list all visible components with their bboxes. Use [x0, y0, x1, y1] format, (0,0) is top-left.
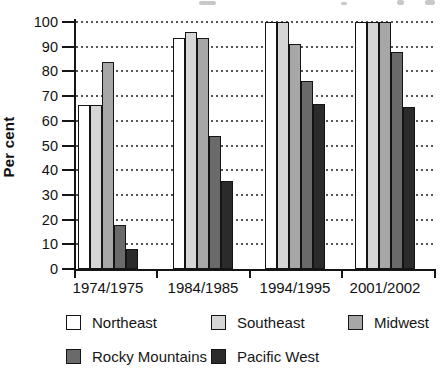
- legend-swatch-rocky-mountains: [66, 349, 81, 364]
- legend-label-southeast: Southeast: [237, 314, 305, 331]
- legend-swatch-pacific-west: [211, 349, 226, 364]
- cropped-text-fragment-1: [341, 2, 347, 5]
- legend-item-rocky-mountains: Rocky Mountains: [66, 348, 207, 365]
- legend-swatch-northeast: [66, 315, 81, 330]
- legend-item-northeast: Northeast: [66, 314, 157, 331]
- chart-legend: NortheastSoutheastMidwestRocky Mountains…: [0, 0, 446, 376]
- legend-item-midwest: Midwest: [348, 314, 429, 331]
- legend-item-pacific-west: Pacific West: [211, 348, 319, 365]
- legend-item-southeast: Southeast: [211, 314, 305, 331]
- cropped-text-fragment-0: [199, 1, 216, 5]
- bar-chart-figure: Per cent 01020304050607080901001974/1975…: [0, 0, 446, 376]
- legend-label-rocky-mountains: Rocky Mountains: [92, 348, 207, 365]
- cropped-text-fragment-2: [397, 0, 404, 5]
- legend-swatch-southeast: [211, 315, 226, 330]
- legend-label-pacific-west: Pacific West: [237, 348, 319, 365]
- legend-label-midwest: Midwest: [374, 314, 429, 331]
- legend-swatch-midwest: [348, 315, 363, 330]
- cropped-text-fragment-3: [425, 0, 435, 5]
- legend-label-northeast: Northeast: [92, 314, 157, 331]
